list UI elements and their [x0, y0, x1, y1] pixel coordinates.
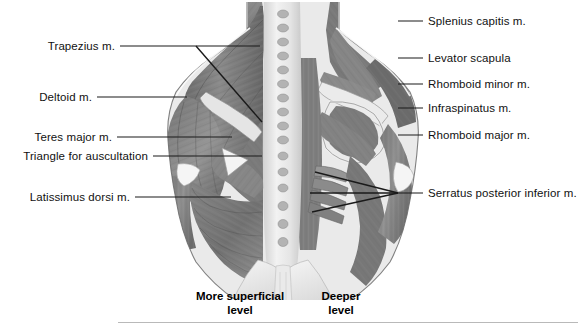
- caption-more-superficial-line2: level: [168, 304, 312, 318]
- leader-triangle-auscultation: [153, 156, 262, 157]
- caption-more-superficial: More superficial level: [168, 290, 312, 317]
- label-rhomboid-minor: Rhomboid minor m.: [428, 78, 530, 91]
- anatomy-figure: Trapezius m. Deltoid m. Teres major m. T…: [0, 0, 585, 330]
- leader-serratus-posterior-inferior: [398, 193, 423, 194]
- caption-deeper: Deeper level: [305, 290, 377, 317]
- footer-divider: [118, 322, 578, 323]
- leader-infraspinatus: [398, 108, 423, 109]
- label-triangle-auscultation: Triangle for auscultation: [23, 150, 148, 163]
- caption-more-superficial-line1: More superficial: [168, 290, 312, 304]
- caption-deeper-line1: Deeper: [305, 290, 377, 304]
- label-infraspinatus: Infraspinatus m.: [428, 102, 511, 115]
- label-deltoid: Deltoid m.: [39, 91, 92, 104]
- label-teres-major: Teres major m.: [35, 131, 112, 144]
- label-latissimus-dorsi: Latissimus dorsi m.: [30, 191, 130, 204]
- leader-rhomboid-major: [398, 135, 423, 136]
- label-rhomboid-major: Rhomboid major m.: [428, 129, 530, 142]
- label-levator-scapula: Levator scapula: [428, 52, 511, 65]
- label-trapezius: Trapezius m.: [48, 40, 115, 53]
- leader-splenius-capitis: [398, 21, 423, 22]
- caption-deeper-line2: level: [305, 304, 377, 318]
- label-serratus-posterior-inferior: Serratus posterior inferior m.: [428, 187, 577, 200]
- leader-latissimus-dorsi: [135, 197, 231, 198]
- label-splenius-capitis: Splenius capitis m.: [428, 15, 526, 28]
- leader-rhomboid-minor: [398, 84, 423, 85]
- leader-deltoid: [97, 97, 187, 98]
- leader-trapezius: [120, 46, 260, 47]
- leader-teres-major: [117, 137, 232, 138]
- leader-levator-scapula: [398, 58, 423, 59]
